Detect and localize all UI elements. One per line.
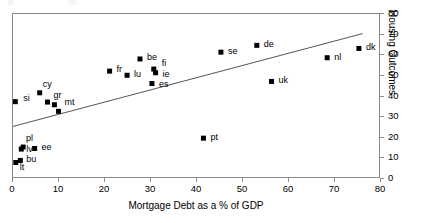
data-point-marker (149, 81, 154, 86)
x-tick-label: 80 (366, 184, 394, 194)
y-tick-mark (380, 137, 384, 138)
data-point-label: fr (117, 65, 123, 74)
data-point-label: si (23, 94, 30, 103)
trendline-path (13, 34, 363, 127)
scatter-chart: siltbulvpleecygrmtfrlubefiieesptsedeuknl… (0, 0, 426, 223)
data-point-label: gr (54, 91, 62, 100)
data-point-marker (356, 46, 361, 51)
data-point-label: es (159, 80, 169, 89)
trendline (13, 34, 363, 127)
data-point-marker (37, 90, 42, 95)
x-tick-label: 60 (274, 184, 302, 194)
data-point-label: nl (334, 53, 341, 62)
data-point-label: ee (42, 143, 52, 152)
data-point-label: dk (366, 43, 376, 52)
data-point-marker (254, 43, 259, 48)
data-point-label: lt (20, 163, 25, 172)
y-tick-label: 10 (388, 152, 408, 162)
data-point-marker (125, 73, 130, 78)
x-tick-mark (58, 178, 59, 182)
data-point-marker (218, 50, 223, 55)
data-point-marker (45, 100, 50, 105)
data-point-label: pt (210, 133, 218, 142)
x-tick-label: 40 (182, 184, 210, 194)
x-tick-mark (288, 178, 289, 182)
data-point-marker (21, 145, 26, 150)
x-tick-mark (242, 178, 243, 182)
data-point-marker (13, 99, 18, 104)
x-tick-label: 0 (0, 184, 26, 194)
x-tick-mark (150, 178, 151, 182)
plot-area: siltbulvpleecygrmtfrlubefiieesptsedeuknl… (12, 13, 380, 178)
data-point-marker (107, 69, 112, 74)
data-point-marker (153, 70, 158, 75)
data-point-label: be (147, 53, 157, 62)
y-axis-title: Housing Outcomes (384, 10, 398, 130)
y-tick-label: 20 (388, 132, 408, 142)
cropped-header-remnant (8, 0, 178, 5)
data-point-label: uk (279, 76, 289, 85)
y-tick-label: 0 (388, 173, 408, 183)
x-tick-label: 50 (228, 184, 256, 194)
data-point-marker (56, 109, 61, 114)
x-tick-label: 30 (136, 184, 164, 194)
data-point-marker (52, 102, 57, 107)
data-point-marker (325, 55, 330, 60)
data-point-label: ie (163, 70, 170, 79)
x-tick-label: 70 (320, 184, 348, 194)
data-point-label: lu (134, 70, 141, 79)
x-tick-mark (334, 178, 335, 182)
x-tick-mark (104, 178, 105, 182)
x-tick-mark (12, 178, 13, 182)
y-tick-mark (380, 157, 384, 158)
data-point-marker (13, 160, 18, 165)
data-point-label: cy (43, 80, 52, 89)
data-point-label: bu (26, 155, 36, 164)
data-point-marker (137, 56, 142, 61)
x-tick-label: 10 (44, 184, 72, 194)
data-point-label: fi (162, 59, 167, 68)
data-point-marker (201, 136, 206, 141)
x-tick-label: 20 (90, 184, 118, 194)
data-point-label: lv (26, 145, 33, 154)
data-point-label: se (228, 47, 238, 56)
data-point-marker (269, 79, 274, 84)
x-tick-mark (196, 178, 197, 182)
x-axis-title: Mortgage Debt as a % of GDP (0, 200, 392, 211)
data-point-label: de (264, 40, 274, 49)
y-tick-mark (380, 178, 384, 179)
data-point-label: pl (26, 134, 33, 143)
data-point-label: mt (64, 98, 74, 107)
